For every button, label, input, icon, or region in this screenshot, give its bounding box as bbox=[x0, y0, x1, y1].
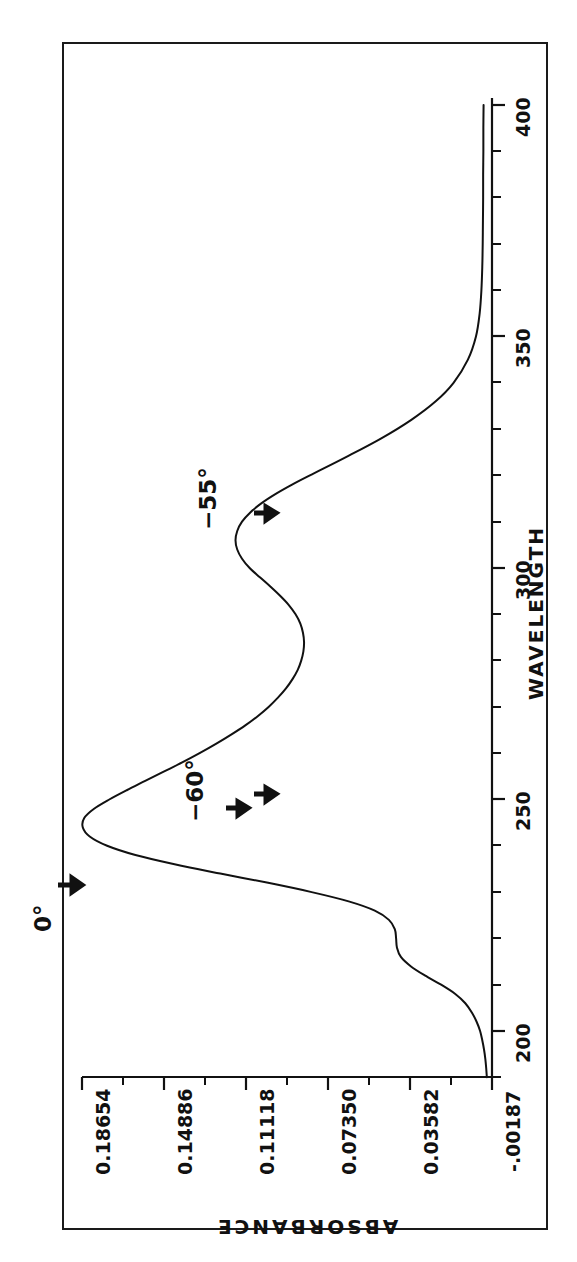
wavelength-axis bbox=[492, 98, 505, 1077]
arrow-60deg-b bbox=[254, 788, 276, 801]
ytick-label-1: 0.14886 bbox=[174, 1088, 196, 1175]
wavelength-axis-title: WAVELENGTH bbox=[524, 526, 548, 700]
xtick-label-400: 400 bbox=[512, 97, 534, 137]
absorbance-axis-title: ABSORBANCE bbox=[215, 1215, 398, 1239]
spectrum-curve bbox=[82, 105, 487, 1077]
spectrum-plot bbox=[0, 0, 577, 1262]
ytick-label-4: 0.03582 bbox=[420, 1088, 442, 1175]
arrow-0deg bbox=[58, 878, 82, 892]
ytick-label-3: 0.07350 bbox=[338, 1088, 360, 1175]
annotation-minus55deg: −55° bbox=[195, 467, 221, 530]
ytick-label-5: -.00187 bbox=[502, 1091, 524, 1172]
arrow-55deg bbox=[254, 507, 276, 520]
xtick-label-250: 250 bbox=[512, 791, 534, 831]
scanned-figure-page: 0° −60° −55° 0.18654 0.14886 0.11118 0.0… bbox=[0, 0, 577, 1262]
arrow-60deg-a bbox=[226, 802, 248, 815]
xtick-label-350: 350 bbox=[512, 328, 534, 368]
ytick-label-0: 0.18654 bbox=[92, 1088, 114, 1175]
annotation-minus60deg: −60° bbox=[182, 759, 208, 822]
xtick-label-200: 200 bbox=[512, 1023, 534, 1063]
ytick-label-2: 0.11118 bbox=[256, 1088, 278, 1175]
annotation-0deg: 0° bbox=[30, 904, 56, 932]
